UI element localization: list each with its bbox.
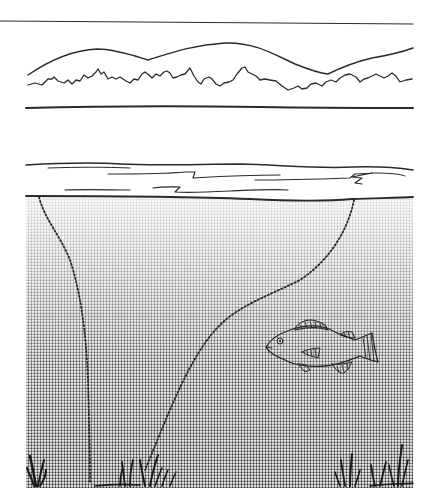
lake-illustration [0,0,430,488]
surface-layer [26,163,413,201]
distant-hills [28,43,413,75]
treeline [28,67,412,90]
far-shore-line [26,106,413,108]
water-body [26,196,413,488]
horizon-rule [0,21,413,24]
